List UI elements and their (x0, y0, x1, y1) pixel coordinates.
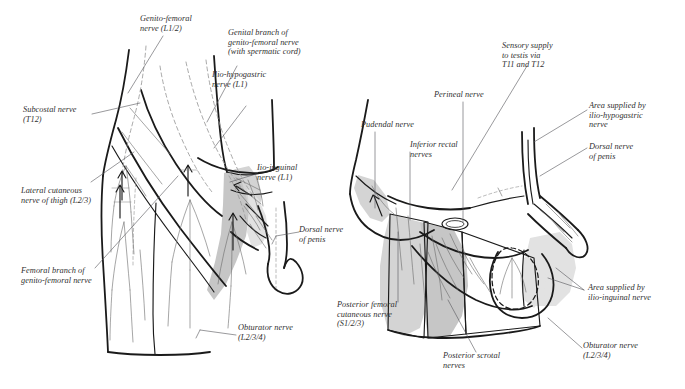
label-inferior-rectal-nerves: Inferior rectal nerves (410, 140, 458, 159)
left-panel-anterior-view (102, 46, 303, 355)
penis-root-right (534, 128, 540, 198)
label-dorsal-nerve-of-penis-left: Dorsal nerve of penis (299, 225, 343, 244)
figure-canvas: .ol { fill:none; stroke:#1a1a1a; stroke-… (0, 0, 685, 389)
leader-obturator-right (548, 318, 582, 348)
penis-root-left (522, 132, 528, 204)
pubic-right-edge (272, 100, 274, 168)
label-genito-femoral-nerve: Genito-femoral nerve (L1/2) (140, 14, 192, 33)
penis-root-mid (528, 140, 533, 204)
nerve-filaments-subcostal (111, 166, 146, 254)
hip-contour (122, 132, 162, 184)
label-obturator-nerve-left: Obturator nerve (L2/3/4) (238, 323, 293, 342)
thigh-fold-left (388, 196, 470, 210)
label-perineal-nerve: Perineal nerve (434, 90, 484, 100)
leader-obturator-left-tick (196, 330, 200, 338)
label-posterior-femoral-cutaneous-nerve: Posterior femoral cutaneous nerve (S1/2/… (337, 300, 397, 329)
leader-obturator-left (200, 330, 236, 335)
label-dorsal-nerve-of-penis-right: Dorsal nerve of penis (589, 142, 633, 161)
nerve-filaments-lateral-cutaneous (110, 222, 145, 342)
glans-penis-left (267, 259, 302, 294)
leader-area-ilio-hypogastric (534, 110, 587, 142)
inguinal-fold-upper (141, 90, 222, 216)
label-area-supplied-by-ilio-hypogastric: Area supplied by ilio-hypogastric nerve (589, 101, 646, 130)
penis-shaft-left-2 (284, 202, 287, 268)
leader-femoral-branch (95, 176, 178, 268)
thigh-left-medial (153, 203, 156, 354)
leader-genito-femoral (128, 36, 163, 93)
label-ilio-hypogastric-nerve: Ilio-hypogastric nerve (L1) (212, 70, 266, 89)
dermatome-boundary-medial (133, 178, 136, 266)
anus-inner (446, 221, 464, 228)
label-genital-branch-genito-femoral: Genital branch of genito-femoral nerve (… (228, 28, 301, 57)
label-area-supplied-by-ilio-inguinal: Area supplied by ilio-inguinal nerve (588, 283, 651, 302)
label-obturator-nerve-right: Obturator nerve (L2/3/4) (583, 341, 638, 360)
leader-dorsal-penis-tick (272, 236, 276, 244)
abdomen-lower-left (102, 176, 109, 352)
anatomy-illustration: .ol { fill:none; stroke:#1a1a1a; stroke-… (0, 0, 685, 389)
thigh-left-outline (108, 352, 210, 355)
label-subcostal-nerve: Subcostal nerve (T12) (23, 105, 77, 124)
label-sensory-supply-to-testis: Sensory supply to testis via T11 and T12 (502, 41, 553, 70)
testis-nerve-filaments (500, 258, 526, 298)
label-lateral-cutaneous-nerve-thigh: Lateral cutaneous nerve of thigh (L2/3) (21, 186, 91, 205)
leader-dorsal-nerve-penis-right (540, 148, 587, 176)
label-femoral-branch-genito-femoral: Femoral branch of genito-femoral nerve (21, 266, 92, 285)
label-ilio-inguinal-nerve: Iio-inguinal nerve (L1) (257, 163, 297, 182)
label-pudendal-nerve: Pudendal nerve (361, 120, 414, 130)
leader-subcostal (92, 103, 140, 114)
suprapubic-mark (498, 188, 502, 196)
dermatome-boundary-t12 (122, 46, 146, 174)
dermatome-boundary-l1 (160, 66, 212, 192)
label-posterior-scrotal-nerves: Posterior scrotal nerves (443, 351, 500, 370)
